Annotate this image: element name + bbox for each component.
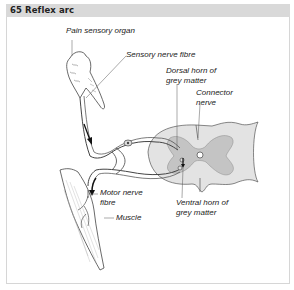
muscle-drawing: [60, 169, 104, 270]
label-connector-nerve: Connector nerve: [196, 88, 233, 108]
finger-drawing: [67, 52, 105, 109]
label-pain-sensory-organ: Pain sensory organ: [66, 26, 135, 36]
label-muscle: Muscle: [116, 213, 141, 223]
motor-arrow: [92, 178, 96, 192]
sensory-arrowhead: [87, 137, 92, 145]
label-sensory-nerve-fibre: Sensory nerve fibre: [126, 50, 195, 60]
spinal-cord: [148, 122, 258, 192]
label-ventral-horn: Ventral horn of grey matter: [176, 198, 228, 218]
reflex-arc-diagram: [0, 0, 294, 290]
label-motor-nerve-fibre: Motor nerve fibre: [100, 188, 143, 208]
label-dorsal-horn: Dorsal horn of grey matter: [166, 66, 216, 86]
